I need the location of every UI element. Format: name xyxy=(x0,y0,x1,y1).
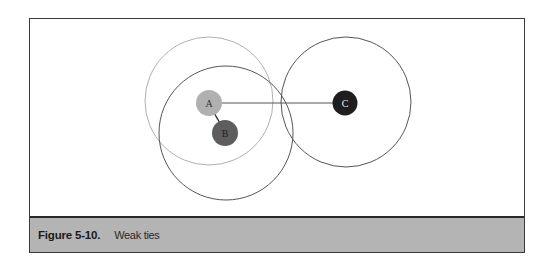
node-c-label: C xyxy=(342,98,349,109)
caption-bar: Figure 5-10. Weak ties xyxy=(30,216,524,252)
figure-frame: A B C Figure 5-10. Weak ties xyxy=(29,18,525,253)
weak-ties-diagram: A B C xyxy=(30,19,524,217)
node-c: C xyxy=(333,91,358,116)
node-a: A xyxy=(196,90,222,116)
node-a-label: A xyxy=(205,98,213,109)
figure-caption: Weak ties xyxy=(114,229,159,241)
node-b: B xyxy=(212,120,238,146)
figure-number: Figure 5-10. xyxy=(38,229,100,241)
node-b-label: B xyxy=(222,128,229,139)
